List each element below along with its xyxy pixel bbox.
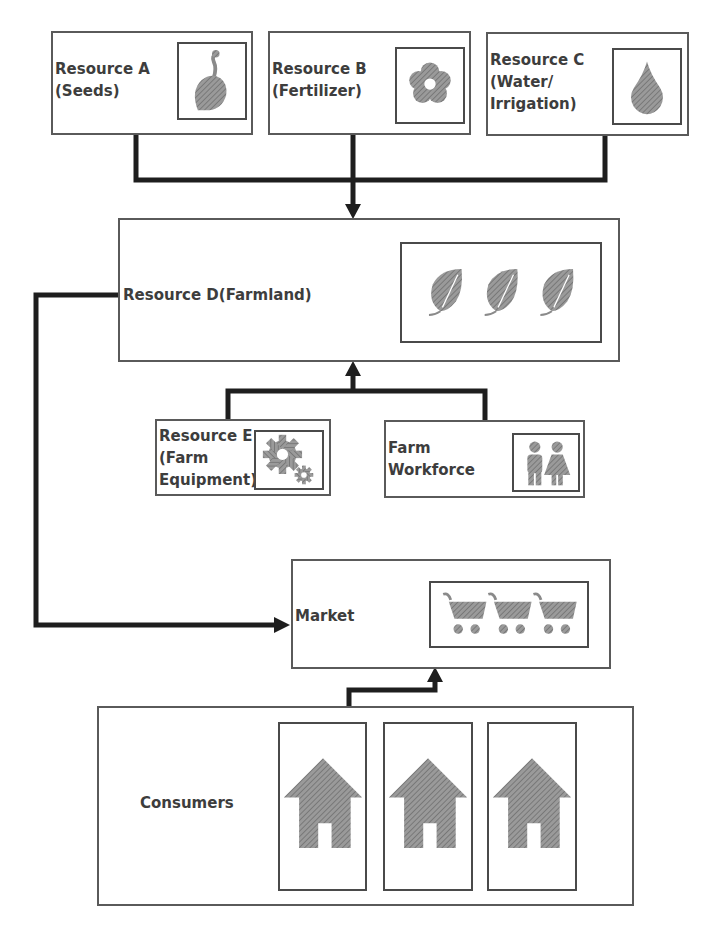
node-resource-e[interactable]: Resource E (Farm Equipment) xyxy=(155,419,331,496)
node-label: Resource D(Farmland) xyxy=(123,284,312,306)
edge-a-to-d xyxy=(136,134,605,180)
node-label: Consumers xyxy=(140,792,234,814)
node-label: Irrigation) xyxy=(490,93,584,115)
seed-icon xyxy=(177,42,247,120)
node-label: Resource B xyxy=(272,58,367,80)
node-label: Workforce xyxy=(388,459,475,481)
house-icon xyxy=(487,722,577,891)
node-resource-c[interactable]: Resource C (Water/ Irrigation) xyxy=(486,32,689,136)
arrowhead-up-icon xyxy=(427,667,443,682)
node-label: Resource A xyxy=(55,58,150,80)
gears-icon xyxy=(254,430,324,490)
arrowhead-up-icon xyxy=(345,361,361,376)
house-icon xyxy=(278,722,367,891)
house-icon xyxy=(383,722,473,891)
flower-icon xyxy=(395,47,465,124)
node-label: Resource E xyxy=(159,425,257,447)
node-label: (Farm xyxy=(159,447,257,469)
node-label: (Water/ xyxy=(490,71,584,93)
node-consumers[interactable]: Consumers xyxy=(97,706,634,906)
node-farm-workforce[interactable]: Farm Workforce xyxy=(384,420,585,498)
node-label: (Seeds) xyxy=(55,80,150,102)
node-label: Market xyxy=(295,605,354,627)
water-drop-icon xyxy=(612,48,682,125)
edge-consumers-to-market xyxy=(349,680,435,706)
node-label: Equipment) xyxy=(159,469,257,491)
node-market[interactable]: Market xyxy=(291,559,611,669)
edge-e-workforce-to-d xyxy=(228,391,485,420)
node-resource-b[interactable]: Resource B (Fertilizer) xyxy=(268,31,471,135)
people-icon xyxy=(512,433,580,492)
node-label: Resource C xyxy=(490,49,584,71)
arrowhead-right-icon xyxy=(274,617,290,633)
arrowhead-down-icon xyxy=(345,204,361,219)
node-resource-d[interactable]: Resource D(Farmland) xyxy=(118,218,620,362)
leaf-icon-group xyxy=(400,242,602,343)
shopping-cart-icon-group xyxy=(429,581,589,648)
node-label: (Fertilizer) xyxy=(272,80,367,102)
node-label: Farm xyxy=(388,437,475,459)
node-resource-a[interactable]: Resource A (Seeds) xyxy=(51,31,253,135)
